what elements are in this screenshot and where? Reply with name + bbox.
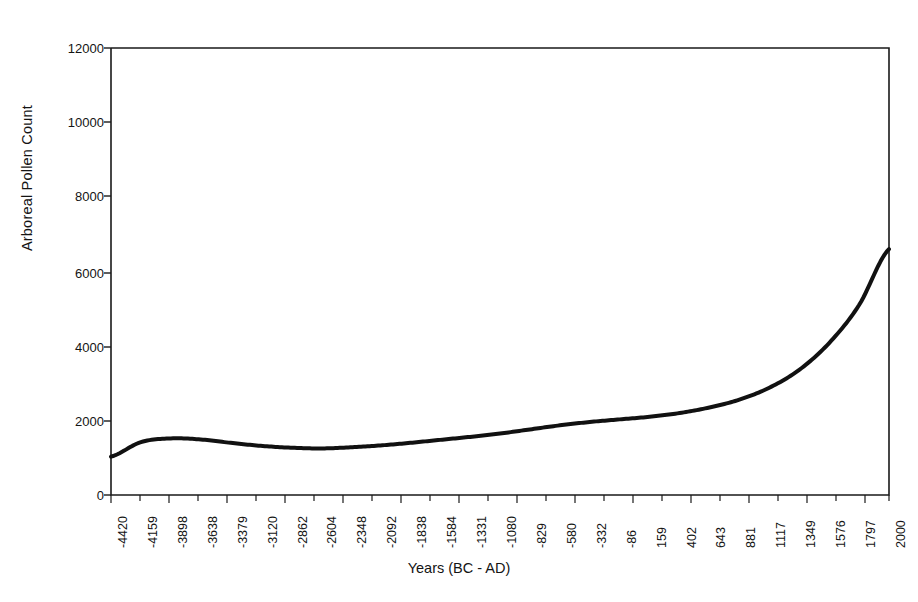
pollen-count-chart: 12000 10000 8000 6000 4000 2000 0 -4420-… bbox=[0, 0, 918, 602]
x-tick-label: -1331 bbox=[475, 516, 489, 548]
x-tick-label: -1838 bbox=[415, 516, 429, 548]
y-axis-title: Arboreal Pollen Count bbox=[19, 73, 35, 283]
x-tick-label: -332 bbox=[595, 523, 609, 548]
x-tick-label: 643 bbox=[714, 527, 728, 548]
x-tick-label: 1576 bbox=[834, 520, 848, 548]
x-tick-label: -2862 bbox=[296, 516, 310, 548]
x-tick-label: -1080 bbox=[505, 516, 519, 548]
x-tick-label: -2092 bbox=[385, 516, 399, 548]
x-tick-label: -2348 bbox=[355, 516, 369, 548]
x-tick-label: -4420 bbox=[116, 516, 130, 548]
x-tick-label: 402 bbox=[685, 527, 699, 548]
x-tick-label: 881 bbox=[744, 527, 758, 548]
x-tick-label: 159 bbox=[655, 527, 669, 548]
x-tick-label: -4159 bbox=[146, 516, 160, 548]
x-axis-tick-labels: -4420-4159-3898-3638-3379-3120-2862-2604… bbox=[0, 0, 918, 602]
x-tick-label: 1117 bbox=[774, 522, 788, 548]
x-tick-label: -3379 bbox=[236, 516, 250, 548]
x-tick-label: -2604 bbox=[325, 516, 339, 548]
x-tick-label: -3898 bbox=[176, 516, 190, 548]
x-tick-label: -3638 bbox=[206, 516, 220, 548]
x-axis-title: Years (BC - AD) bbox=[0, 560, 918, 576]
x-tick-label: -3120 bbox=[266, 516, 280, 548]
x-tick-label: -86 bbox=[625, 530, 639, 548]
x-tick-label: -1584 bbox=[445, 516, 459, 548]
x-tick-label: 1797 bbox=[864, 520, 878, 548]
x-tick-label: -829 bbox=[535, 523, 549, 548]
x-tick-label: 2000 bbox=[894, 520, 908, 548]
x-tick-label: 1349 bbox=[804, 520, 818, 548]
x-tick-label: -580 bbox=[565, 523, 579, 548]
